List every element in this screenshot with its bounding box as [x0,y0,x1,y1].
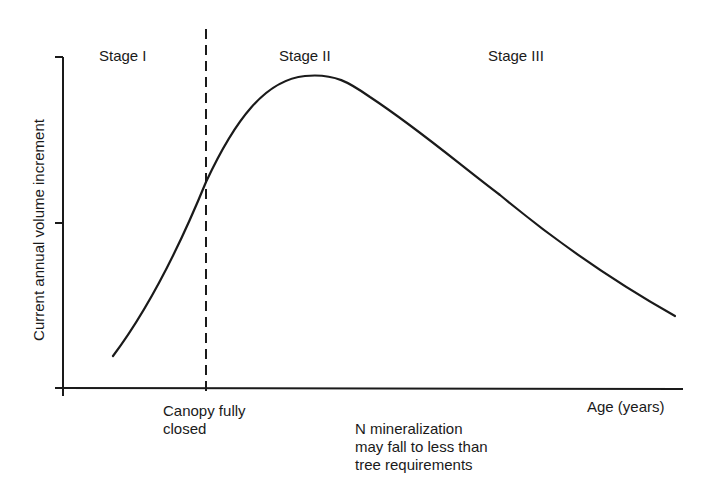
canopy-annotation-line-1: Canopy fully [163,402,246,420]
x-axis [55,388,683,389]
canopy-annotation: Canopy fully closed [163,402,246,438]
n-mineralization-line-2: may fall to less than [355,438,488,456]
n-mineralization-annotation: N mineralization may fall to less than t… [355,420,488,474]
canopy-annotation-line-2: closed [163,420,246,438]
stage-3-label: Stage III [488,47,544,65]
n-mineralization-line-1: N mineralization [355,420,488,438]
stage-2-label: Stage II [279,47,331,65]
increment-curve [113,75,675,356]
stage-1-label: Stage I [99,47,147,65]
x-axis-label: Age (years) [587,398,665,416]
y-axis-label: Current annual volume increment [30,119,47,341]
n-mineralization-line-3: tree requirements [355,456,488,474]
